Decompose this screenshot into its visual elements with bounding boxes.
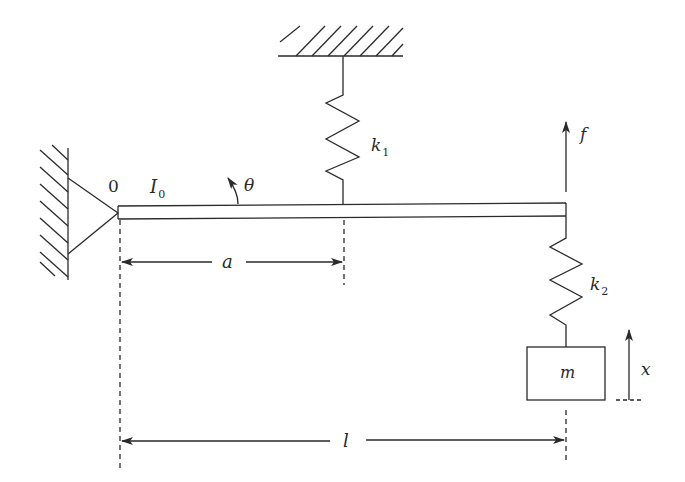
theta-label: θ [244, 175, 254, 195]
left-wall [40, 145, 68, 280]
spring-k2 [550, 216, 582, 347]
rigid-bar [118, 203, 566, 219]
spring-k1 [326, 56, 359, 204]
dim-l-label: l [343, 430, 349, 451]
dim-a-label: a [222, 251, 233, 272]
rotation-arrow [228, 178, 238, 204]
mass-label: m [560, 363, 575, 382]
vibration-diagram: 0 I0 θ k1 k2 f m x a l [0, 0, 685, 482]
ceiling [278, 26, 403, 56]
inertia-label: I0 [149, 176, 165, 201]
displacement-label: x [641, 359, 651, 379]
k1-label: k1 [371, 135, 389, 159]
k2-label: k2 [590, 274, 608, 298]
pivot-label: 0 [108, 176, 119, 196]
force-label: f [578, 124, 589, 144]
